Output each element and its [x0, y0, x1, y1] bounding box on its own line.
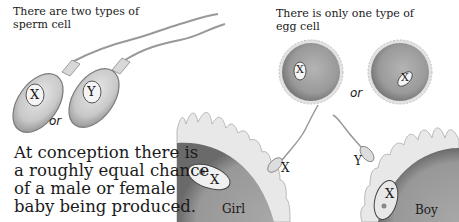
egg-cytoplasm — [371, 43, 429, 101]
egg-cell-1 — [279, 40, 343, 104]
sperm-caption-line2: sperm cell — [13, 18, 71, 31]
sperm-tail — [125, 24, 225, 60]
sperm-tail — [333, 115, 362, 148]
egg-cytoplasm — [282, 43, 340, 101]
sperm-midpiece — [62, 60, 80, 76]
conclusion-line-3: of a male or female — [14, 179, 176, 198]
egg-caption-line1: There is only one type of — [276, 7, 414, 20]
conclusion-line-2: a roughly equal chance — [14, 161, 209, 180]
girl-outcome-label: Girl — [222, 202, 245, 216]
sperm-x-chromosome-label: X — [30, 87, 39, 102]
boy-sperm-chromosome-label: Y — [354, 154, 362, 168]
sperm-tail — [282, 105, 318, 160]
sperm-y-chromosome-label: Y — [87, 84, 96, 99]
sperm-or-label: or — [49, 114, 61, 128]
egg-caption-line2: egg cell — [276, 20, 320, 33]
boy-outcome-label: Boy — [415, 203, 438, 217]
girl-egg-chromosome-label: X — [210, 172, 219, 187]
sperm-tail — [72, 14, 218, 62]
fertilization-boy — [333, 115, 459, 222]
boy-egg-chromosome-label: X — [385, 186, 394, 201]
conclusion-line-1: At conception there is — [14, 143, 198, 162]
girl-sperm-chromosome-label: X — [281, 161, 290, 175]
egg1-chromosome-label: X — [296, 63, 304, 76]
sperm-caption-line1: There are two types of — [13, 5, 139, 18]
egg-or-label: or — [350, 86, 362, 100]
conclusion-line-4: baby being produced. — [14, 197, 196, 216]
egg-cell-2 — [368, 40, 432, 104]
egg2-chromosome-label: X — [401, 71, 409, 84]
sperm-midpiece — [112, 58, 130, 74]
